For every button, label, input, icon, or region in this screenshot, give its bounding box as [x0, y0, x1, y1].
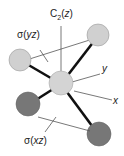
atom-lower-left	[16, 92, 40, 116]
y-axis-line	[72, 74, 100, 82]
atom-upper-left	[9, 49, 31, 71]
sigma-yz-leader-line	[40, 50, 48, 62]
molecule-symmetry-diagram: C2(z) σ(yz) y x σ(xz)	[0, 0, 124, 156]
y-axis-label: y	[101, 63, 108, 74]
atom-lower-right	[87, 122, 111, 146]
x-axis-line	[74, 91, 112, 100]
atom-upper-right	[87, 24, 109, 46]
atom-central	[49, 71, 73, 95]
x-axis-label: x	[112, 95, 119, 106]
sigma-yz-label: σ(yz)	[17, 29, 40, 40]
sigma-xz-plane-line	[38, 117, 90, 131]
c2-axis-label: C2(z)	[50, 8, 73, 21]
sigma-xz-label: σ(xz)	[24, 135, 47, 146]
sigma-yz-plane-line	[20, 38, 96, 62]
